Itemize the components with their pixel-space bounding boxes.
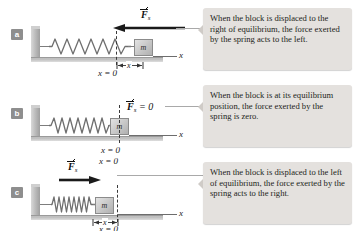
block: m <box>95 197 114 214</box>
x-axis <box>153 56 177 57</box>
force-vector-arrow <box>113 24 185 32</box>
spring-force-figure: a m x <box>0 0 356 231</box>
caption-a: When the block is displaced to the right… <box>203 8 352 70</box>
floor-edge-line <box>31 215 163 216</box>
force-subscript: s <box>75 166 78 174</box>
panel-c-badge: c <box>11 187 23 198</box>
force-vector-label: Fs = 0 <box>127 101 153 114</box>
displacement-label: x <box>126 61 132 70</box>
spring-lead-left <box>40 125 49 126</box>
x-axis-label: x <box>179 50 183 60</box>
floor-edge-line <box>31 57 163 58</box>
leader-line-c <box>117 175 203 176</box>
panel-b: b m x x = 0 Fs = 0 <box>0 77 200 154</box>
x-axis <box>129 135 177 136</box>
force-symbol: F <box>141 9 148 20</box>
spring-relaxed <box>49 117 111 134</box>
spring-compressed <box>51 196 95 213</box>
force-suffix: = 0 <box>136 101 153 112</box>
equilibrium-label-top: x = 0 <box>99 156 118 166</box>
caption-b: When the block is at its equilibrium pos… <box>203 85 352 147</box>
panel-c: c m x x <box>0 154 200 231</box>
wall-top-cap <box>31 26 40 29</box>
panel-a: a m x <box>0 0 200 77</box>
force-vector-label: Fs <box>68 161 77 174</box>
force-subscript: s <box>148 14 151 22</box>
spring-lead-left <box>40 204 51 205</box>
panel-b-badge: b <box>11 108 23 119</box>
wall-top-cap <box>31 105 40 108</box>
caption-c: When the block is displaced to the left … <box>203 162 352 224</box>
equilibrium-dashed-line <box>119 105 120 143</box>
force-symbol: F <box>68 161 75 172</box>
wall-top-cap <box>31 184 40 187</box>
spring-lead-left <box>40 46 49 47</box>
equilibrium-dashed-line <box>117 185 118 222</box>
equilibrium-dashed-line <box>116 31 117 65</box>
x-axis-label: x <box>179 129 183 139</box>
block-mass-label: m <box>96 202 113 210</box>
floor-edge-line <box>31 136 163 137</box>
force-vector-arrow <box>59 176 101 184</box>
x-axis-label: x <box>179 208 183 218</box>
equilibrium-label: x = 0 <box>99 224 118 231</box>
force-symbol: F <box>127 101 134 112</box>
block-mass-label: m <box>135 44 152 52</box>
force-vector-label: Fs <box>141 9 150 22</box>
panel-a-badge: a <box>11 29 23 40</box>
x-axis <box>117 214 177 215</box>
block: m <box>134 39 153 56</box>
spring-stretched <box>49 38 131 55</box>
